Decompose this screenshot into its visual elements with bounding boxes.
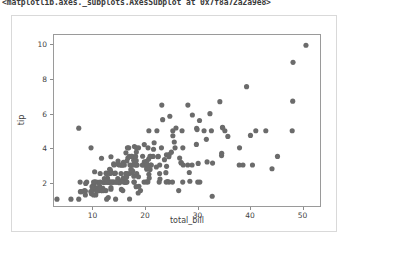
y-axis-title: tip [17,115,26,125]
y-tick-mark [50,44,53,45]
matplotlib-figure-card: 246810 1020304050 tip total_bill [11,15,337,232]
y-tick-mark [50,148,53,149]
x-tick-label-20: 20 [140,211,150,220]
x-tick-mark [303,207,304,210]
cell-output-repr-text: <matplotlib.axes._subplots.AxesSubplot a… [2,0,271,7]
y-tick-label-10: 10 [25,40,47,49]
y-tick-label-2: 2 [25,178,47,187]
x-tick-mark [145,207,146,210]
x-tick-mark [198,207,199,210]
x-tick-label-50: 50 [298,211,308,220]
y-tick-label-6: 6 [25,109,47,118]
x-tick-label-40: 40 [245,211,255,220]
y-tick-label-4: 4 [25,144,47,153]
x-axis-title: total_bill [170,216,204,225]
plot-axes-area [53,34,321,207]
x-tick-mark [92,207,93,210]
y-tick-mark [50,183,53,184]
x-tick-label-10: 10 [88,211,98,220]
scatter-plot-svg [54,35,320,206]
y-tick-label-8: 8 [25,74,47,83]
x-tick-mark [250,207,251,210]
y-tick-mark [50,114,53,115]
y-tick-mark [50,79,53,80]
